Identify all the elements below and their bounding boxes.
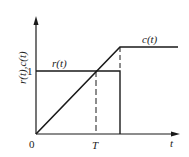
y-axis-label: r(t),c(t) (16, 51, 29, 84)
x-axis-label: t (170, 137, 174, 149)
r-series-label: r(t) (52, 57, 67, 70)
r-series-line (36, 71, 120, 134)
x-axis-arrow-icon (171, 132, 180, 137)
T-tick-label: T (92, 139, 99, 151)
origin-label: 0 (29, 138, 35, 150)
c-series-label: c(t) (142, 33, 158, 46)
chart-canvas: 0 T t 1 r(t),c(t) r(t) c(t) (0, 0, 189, 157)
y-axis-arrow-icon (34, 16, 39, 25)
